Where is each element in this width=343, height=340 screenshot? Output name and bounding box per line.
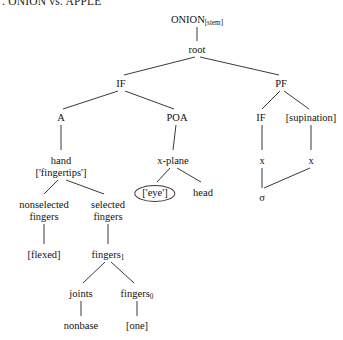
tree-edge: [63, 91, 118, 109]
node-label-line2: ['fingertips']: [35, 167, 86, 179]
node-label: [one]: [126, 320, 148, 331]
node-label: head: [193, 187, 213, 198]
node-label: x: [308, 155, 313, 166]
diagram-page: . ONION vs. APPLE ONION[stem]rootIFPFAPO…: [0, 0, 343, 340]
node-label: [flexed]: [27, 249, 60, 260]
tree-edge: [284, 91, 309, 109]
node-label: POA: [166, 112, 187, 123]
tree-node-one: [one]: [126, 320, 148, 332]
tree-edge: [44, 180, 58, 194]
node-label-line2: fingers: [19, 211, 69, 223]
node-label: root: [189, 44, 206, 55]
node-label: nonselected: [19, 199, 69, 210]
tree-node-sigma: σ: [259, 192, 265, 204]
tree-edge: [264, 168, 310, 188]
tree-node-poa: POA: [166, 112, 187, 124]
tree-node-x-right: x: [308, 155, 313, 167]
tree-node-if2: IF: [256, 112, 265, 124]
tree-node-supination: [supination]: [286, 112, 337, 124]
tree-node-fingers0: fingers0: [121, 288, 154, 302]
tree-edge: [173, 125, 176, 150]
tree-node-nonselected: nonselectedfingers: [19, 199, 69, 222]
tree-edge: [157, 168, 170, 182]
tree-edge: [262, 91, 280, 109]
node-subscript: [stem]: [205, 19, 223, 27]
tree-edge: [200, 57, 279, 75]
tree-edge: [111, 262, 134, 283]
tree-edge: [177, 168, 201, 182]
tree-node-pf: PF: [275, 78, 287, 90]
node-label: PF: [275, 78, 287, 89]
tree-node-if1: IF: [116, 78, 125, 90]
tree-edge: [83, 262, 105, 283]
tree-node-a: A: [57, 112, 65, 124]
node-label: ['eye']: [142, 187, 167, 198]
tree-node-x-left: x: [259, 155, 264, 167]
node-label: [supination]: [286, 112, 337, 123]
node-label: nonbase: [64, 320, 98, 331]
tree-node-flexed: [flexed]: [27, 249, 60, 261]
node-label: IF: [116, 78, 125, 89]
node-label: A: [57, 112, 65, 123]
tree-node-hand: hand['fingertips']: [35, 155, 86, 178]
tree-node-selected: selectedfingers: [91, 199, 125, 222]
node-label: σ: [259, 192, 265, 203]
tree-edge: [125, 91, 174, 109]
node-label: joints: [69, 288, 92, 299]
tree-node-head: head: [193, 187, 213, 199]
node-subscript: 0: [150, 293, 154, 301]
node-label: fingers: [92, 249, 121, 260]
node-label: fingers: [121, 288, 150, 299]
node-label: selected: [91, 199, 125, 210]
tree-node-eye: ['eye']: [134, 185, 175, 202]
tree-edge: [124, 57, 195, 75]
tree-edge: [66, 180, 104, 194]
tree-node-root: root: [189, 44, 206, 56]
tree-node-joints: joints: [69, 288, 92, 300]
node-label: x: [259, 155, 264, 166]
tree-node-onion: ONION[stem]: [171, 14, 223, 28]
node-label: hand: [51, 155, 71, 166]
node-label: ONION: [171, 14, 205, 25]
node-label: IF: [256, 112, 265, 123]
node-label-line2: fingers: [91, 211, 125, 223]
tree-node-nonbase: nonbase: [64, 320, 98, 332]
node-subscript: 1: [121, 254, 125, 262]
tree-node-fingers1: fingers1: [92, 249, 125, 263]
node-label: x-plane: [157, 155, 189, 166]
tree-node-xplane: x-plane: [157, 155, 189, 167]
